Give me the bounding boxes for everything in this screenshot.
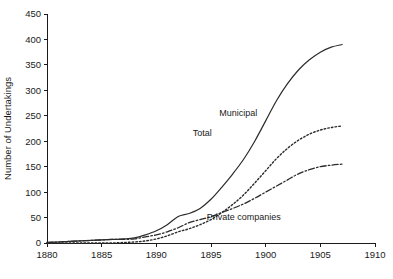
plot-background <box>0 0 393 279</box>
y-tick-label: 450 <box>25 8 41 19</box>
y-tick-label: 250 <box>25 110 41 121</box>
y-tick-label: 300 <box>25 85 41 96</box>
x-tick-label: 1885 <box>91 249 112 260</box>
axis-titles: Number of Undertakings <box>2 77 13 180</box>
line-chart: 050100150200250300350400450 188018851890… <box>0 0 393 279</box>
y-tick-label: 400 <box>25 34 41 45</box>
x-tick-label: 1905 <box>310 249 331 260</box>
x-tick-label: 1890 <box>146 249 167 260</box>
x-tick-label: 1910 <box>364 249 385 260</box>
series-label-municipal: Municipal <box>219 108 257 118</box>
y-tick-label: 50 <box>30 212 41 223</box>
y-axis-title: Number of Undertakings <box>2 77 13 180</box>
x-tick-label: 1900 <box>255 249 276 260</box>
y-tick-label: 100 <box>25 187 41 198</box>
y-tick-label: 0 <box>36 237 41 248</box>
y-tick-label: 150 <box>25 161 41 172</box>
y-tick-label: 350 <box>25 59 41 70</box>
series-label-total: Total <box>193 128 212 138</box>
y-tick-label: 200 <box>25 136 41 147</box>
x-tick-label: 1880 <box>36 249 57 260</box>
x-tick-label: 1895 <box>200 249 221 260</box>
chart-container: 050100150200250300350400450 188018851890… <box>0 0 393 279</box>
series-label-private-companies: Private companies <box>207 212 282 222</box>
